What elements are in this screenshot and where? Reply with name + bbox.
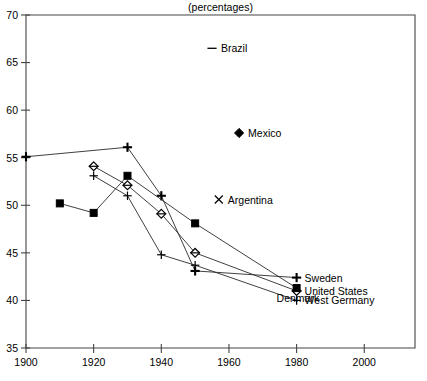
y-tick-label: 60 [6, 104, 18, 116]
marker-filled-square [56, 200, 63, 207]
annotation-mexico: Mexico [235, 127, 282, 139]
x-tick-label: 1940 [150, 356, 174, 368]
y-tick-label: 35 [6, 342, 18, 354]
annotation-brazil: Brazil [207, 42, 247, 54]
x-tick-label: 1960 [217, 356, 241, 368]
x-tick-label: 1980 [285, 356, 309, 368]
marker-filled-square [124, 172, 131, 179]
series-denmark [56, 172, 300, 291]
y-tick-label: 50 [6, 199, 18, 211]
series-label-denmark: Denmark [277, 292, 320, 304]
chart-root: 3540455055606570190019201940196019802000… [0, 0, 427, 381]
y-tick-label: 65 [6, 56, 18, 68]
series-west-germany [89, 172, 300, 305]
chart-subtitle: (percentages) [188, 1, 253, 13]
x-tick-label: 2000 [353, 356, 377, 368]
annotation-label-brazil: Brazil [221, 42, 247, 54]
y-tick-label: 45 [6, 247, 18, 259]
annotation-label-argentina: Argentina [228, 194, 273, 206]
marker-filled-square [192, 220, 199, 227]
marker-filled-diamond [235, 128, 244, 137]
x-tick-label: 1900 [14, 356, 38, 368]
x-tick-label: 1920 [82, 356, 106, 368]
marker-filled-square [293, 285, 300, 292]
series-label-sweden: Sweden [305, 272, 343, 284]
annotation-argentina: Argentina [215, 194, 273, 206]
annotation-label-mexico: Mexico [248, 127, 281, 139]
marker-filled-square [90, 209, 97, 216]
line-chart: 3540455055606570190019201940196019802000… [0, 0, 427, 381]
y-tick-label: 55 [6, 152, 18, 164]
y-tick-label: 70 [6, 9, 18, 21]
y-tick-label: 40 [6, 294, 18, 306]
